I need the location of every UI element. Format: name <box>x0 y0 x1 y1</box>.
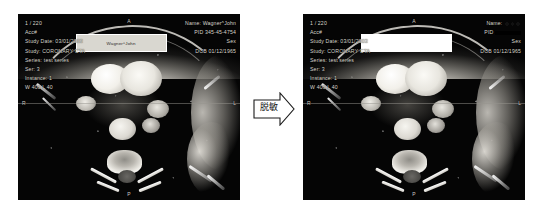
right-hilar-vessel-lower <box>142 118 160 133</box>
overlay-line-accession: Acc# <box>25 28 85 37</box>
patient-name-value: Wagner^John <box>203 20 236 26</box>
overlay-line-image-number: 1 / 220 <box>310 19 370 28</box>
reference-scanline <box>303 103 525 104</box>
patient-id-label: PID <box>484 29 493 35</box>
descending-aorta <box>394 118 421 140</box>
patient-sex-value: Sex <box>512 38 521 44</box>
orientation-marker-right: R <box>22 100 26 106</box>
deidentification-arrow-label: 脱敏 <box>256 102 282 113</box>
reference-scanline <box>18 103 240 104</box>
overlay-line-instance-number: Instance: 1 <box>25 74 85 83</box>
patient-dob-line: DOB 01/12/1965 <box>185 47 236 56</box>
overlay-line-series-description: Series: test series <box>25 56 85 65</box>
dicom-viewer-after[interactable]: 1 / 220 Acc# Study Date: 03/01/2003 Stud… <box>303 14 525 200</box>
orientation-marker-right: R <box>307 100 311 106</box>
patient-name-line: Name: Wagner^John <box>185 19 236 28</box>
patient-dob-value: 01/12/1965 <box>494 48 521 54</box>
patient-id-redaction-block <box>495 31 521 35</box>
overlay-line-instance-number: Instance: 1 <box>310 74 370 83</box>
orientation-marker-anterior: A <box>412 18 415 24</box>
burned-in-annotation-before: Wagner^John <box>76 34 167 52</box>
pulmonary-artery <box>120 61 162 96</box>
patient-dob-label: DOB <box>480 48 492 54</box>
patient-sex-line: Sex <box>185 37 236 46</box>
orientation-marker-posterior: P <box>127 191 130 197</box>
burned-in-annotation-text: Wagner^John <box>107 41 136 46</box>
deidentification-arrow: 脱敏 <box>253 92 295 126</box>
patient-name-redaction-block <box>504 22 521 26</box>
overlay-line-series-number: Ser: 3 <box>310 65 370 74</box>
dicom-overlay-left-after: 1 / 220 Acc# Study Date: 03/01/2003 Stud… <box>310 19 370 93</box>
overlay-line-window-level: W 400 L 40 <box>310 83 370 92</box>
right-hilar-vessel-lower <box>427 118 445 133</box>
patient-dob-value: 01/12/1965 <box>209 48 236 54</box>
lateral-soft-tissue-lower <box>187 122 236 196</box>
spinal-canal <box>118 170 136 183</box>
overlay-line-study-description: Study: CORONARY CTA <box>25 47 85 56</box>
overlay-line-series-description: Series: test series <box>310 56 370 65</box>
patient-name-label: Name: <box>486 20 502 26</box>
patient-id-label: PID <box>194 29 203 35</box>
orientation-marker-left: L <box>518 100 521 106</box>
overlay-line-image-number: 1 / 220 <box>25 19 85 28</box>
spinal-canal <box>403 170 421 183</box>
overlay-line-study-date: Study Date: 03/01/2003 <box>25 37 85 46</box>
descending-aorta <box>109 118 136 140</box>
overlay-line-study-date: Study Date: 03/01/2003 <box>310 37 370 46</box>
patient-id-line: PID 345-45-4754 <box>185 28 236 37</box>
overlay-line-window-level: W 400 L 40 <box>25 83 85 92</box>
patient-name-line: Name: <box>480 19 521 28</box>
overlay-line-series-number: Ser: 3 <box>25 65 85 74</box>
burned-in-annotation-after-masked <box>361 34 452 52</box>
dicom-overlay-patient-before: Name: Wagner^John PID 345-45-4754 Sex DO… <box>185 19 236 56</box>
orientation-marker-anterior: A <box>127 18 130 24</box>
deidentification-comparison: Wagner^John 1 / 220 Acc# Study Date: 03/… <box>0 0 547 215</box>
patient-dob-line: DOB 01/12/1965 <box>480 47 521 56</box>
orientation-marker-left: L <box>233 100 236 106</box>
overlay-line-accession: Acc# <box>310 28 370 37</box>
patient-sex-value: Sex <box>227 38 236 44</box>
lateral-soft-tissue-lower <box>472 122 521 196</box>
patient-name-label: Name: <box>185 20 201 26</box>
overlay-line-study-description: Study: CORONARY CTA <box>310 47 370 56</box>
dicom-viewer-before[interactable]: Wagner^John 1 / 220 Acc# Study Date: 03/… <box>18 14 240 200</box>
patient-id-line: PID <box>480 28 521 37</box>
orientation-marker-posterior: P <box>412 191 415 197</box>
patient-dob-label: DOB <box>195 48 207 54</box>
dicom-overlay-left-before: 1 / 220 Acc# Study Date: 03/01/2003 Stud… <box>25 19 85 93</box>
patient-sex-line: Sex <box>480 37 521 46</box>
pulmonary-artery <box>405 61 447 96</box>
patient-id-value: 345-45-4754 <box>205 29 236 35</box>
dicom-overlay-patient-after: Name: PID Sex DOB 01/12/1965 <box>480 19 521 56</box>
